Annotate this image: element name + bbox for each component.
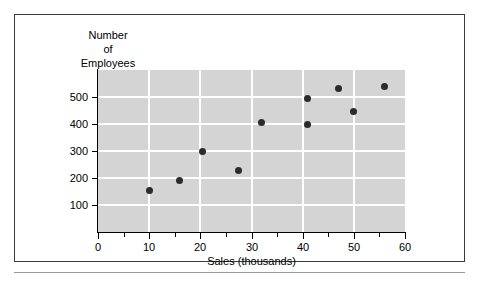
x-axis-tick bbox=[149, 233, 150, 239]
plot-area bbox=[98, 70, 405, 232]
bottom-divider bbox=[14, 272, 465, 273]
x-axis-tick bbox=[405, 233, 406, 239]
x-axis-tick-label: 20 bbox=[185, 241, 215, 253]
data-point bbox=[381, 83, 388, 90]
data-point bbox=[335, 85, 342, 92]
gridline-vertical bbox=[148, 70, 150, 232]
x-axis-minor-tick bbox=[226, 233, 227, 237]
gridline-vertical bbox=[353, 70, 355, 232]
y-axis-tick bbox=[92, 151, 97, 152]
data-point bbox=[176, 177, 183, 184]
data-point bbox=[304, 121, 311, 128]
data-point bbox=[235, 167, 242, 174]
y-axis-tick bbox=[92, 124, 97, 125]
y-axis-line bbox=[97, 69, 98, 233]
y-axis-tick-label: 400 bbox=[26, 119, 88, 130]
y-axis-title-line-1: Number bbox=[56, 28, 160, 42]
x-axis-tick-label: 40 bbox=[288, 241, 318, 253]
y-axis-tick-label: 200 bbox=[26, 173, 88, 184]
gridline-vertical bbox=[251, 70, 253, 232]
gridline-vertical bbox=[302, 70, 304, 232]
x-axis-tick-label: 50 bbox=[339, 241, 369, 253]
data-point bbox=[258, 119, 265, 126]
x-axis-tick bbox=[354, 233, 355, 239]
data-point bbox=[146, 187, 153, 194]
x-axis-tick bbox=[303, 233, 304, 239]
data-point bbox=[304, 95, 311, 102]
x-axis-minor-tick bbox=[175, 233, 176, 237]
y-axis-title: Number of Employees bbox=[56, 28, 160, 70]
x-axis-tick-label: 0 bbox=[83, 241, 113, 253]
x-axis-tick-label: 10 bbox=[134, 241, 164, 253]
x-axis-tick-label: 30 bbox=[237, 241, 267, 253]
x-axis-minor-tick bbox=[277, 233, 278, 237]
y-axis-tick-label: 100 bbox=[26, 200, 88, 211]
data-point bbox=[350, 108, 357, 115]
y-axis-tick-label: 300 bbox=[26, 146, 88, 157]
x-axis-tick-label: 60 bbox=[390, 241, 420, 253]
scatter-plot-figure: Number of Employees 100200300400500 0102… bbox=[0, 0, 479, 286]
x-axis-tick bbox=[252, 233, 253, 239]
x-axis-minor-tick bbox=[379, 233, 380, 237]
x-axis-minor-tick bbox=[124, 233, 125, 237]
y-axis-tick bbox=[92, 205, 97, 206]
y-axis-tick bbox=[92, 97, 97, 98]
x-axis-tick bbox=[98, 233, 99, 239]
y-axis-tick-label: 500 bbox=[26, 92, 88, 103]
x-axis-minor-tick bbox=[328, 233, 329, 237]
x-axis-tick bbox=[200, 233, 201, 239]
data-point bbox=[199, 148, 206, 155]
y-axis-title-line-2: of bbox=[56, 42, 160, 56]
y-axis-title-line-3: Employees bbox=[56, 56, 160, 70]
y-axis-tick bbox=[92, 178, 97, 179]
x-axis-title: Sales (thousands) bbox=[98, 255, 405, 267]
